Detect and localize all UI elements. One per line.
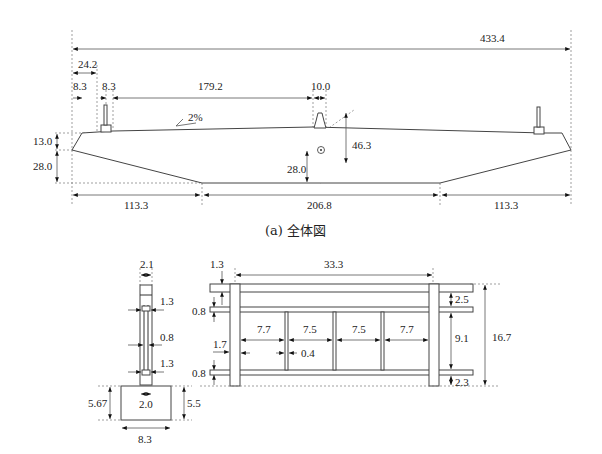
dim-base-width: 8.3 <box>138 433 152 445</box>
overall-view: 433.4 24.2 8.3 8.3 179.2 10.0 2% 13.0 <box>33 30 571 238</box>
rail-left-post <box>104 105 107 125</box>
dim-right-middle: 9.1 <box>455 332 469 344</box>
dim-bottom-left: 113.3 <box>124 199 149 211</box>
post-left <box>230 284 240 386</box>
dim-post-offset: 1.7 <box>213 338 227 350</box>
dim-bottom-middle: 206.8 <box>307 199 332 211</box>
dim-lower-rail-gap: 0.8 <box>192 367 206 379</box>
rail-right-base <box>534 127 544 134</box>
dim-cantilever-depth: 28.0 <box>33 160 53 172</box>
dim-top-offset: 1.3 <box>210 258 224 270</box>
rail-elevation-view: 33.3 1.3 0.8 1.7 0.8 7.7 7.5 <box>192 258 512 388</box>
infill-post-3 <box>381 312 384 370</box>
dim-rail-span: 179.2 <box>198 80 223 92</box>
bridge-cross-section-diagram: 433.4 24.2 8.3 8.3 179.2 10.0 2% 13.0 <box>0 0 602 454</box>
rail-lower-bar <box>142 370 150 375</box>
dim-girder-depth: 46.3 <box>352 139 372 151</box>
caption-overall: (a) 全体図 <box>265 223 326 238</box>
dim-cantilever-edge: 13.0 <box>33 135 53 147</box>
dim-total-width: 433.4 <box>480 32 505 44</box>
dim-total-height: 16.7 <box>492 331 512 343</box>
dim-right-top: 2.5 <box>455 293 469 305</box>
dim-centroid-height: 28.0 <box>287 163 307 175</box>
dim-bay-3: 7.5 <box>352 323 366 335</box>
dim-rail-lower-bar: 1.3 <box>160 357 174 369</box>
dim-base-height-right: 5.5 <box>187 397 201 409</box>
dim-rail-top-width: 2.1 <box>140 258 154 270</box>
post-right <box>429 284 439 386</box>
dim-bay-1: 7.7 <box>257 323 271 335</box>
infill-post-2 <box>333 312 336 370</box>
median-barrier <box>314 113 326 128</box>
dim-base-inner: 2.0 <box>139 398 153 410</box>
dim-post-width: 0.4 <box>301 347 315 359</box>
dim-right-bottom: 2.3 <box>455 376 469 388</box>
rail-left-base <box>101 125 111 132</box>
rail-right-post <box>537 107 540 127</box>
dim-rail-right-offset: 8.3 <box>102 80 116 92</box>
dim-rail-web: 0.8 <box>160 331 174 343</box>
dim-bottom-right: 113.3 <box>494 199 519 211</box>
dim-rail-upper-bar: 1.3 <box>160 295 174 307</box>
dim-upper-rail-gap: 0.8 <box>192 305 206 317</box>
slope-label: 2% <box>188 111 203 123</box>
dim-base-height-left: 5.67 <box>88 397 108 409</box>
girder-outline <box>72 127 571 183</box>
dim-bay-4: 7.7 <box>400 323 414 335</box>
dim-bay-2: 7.5 <box>303 323 317 335</box>
rail-section-view: 2.1 1.3 0.8 1.3 2.0 5.67 5.5 8.3 <box>88 258 201 445</box>
rail-upper-bar <box>142 306 150 311</box>
dim-median-width: 10.0 <box>311 80 331 92</box>
dim-rail-left-width: 8.3 <box>73 80 87 92</box>
infill-post-1 <box>285 312 288 370</box>
dim-edge-to-rail: 24.2 <box>78 58 97 70</box>
dim-elevation-span: 33.3 <box>324 258 344 270</box>
